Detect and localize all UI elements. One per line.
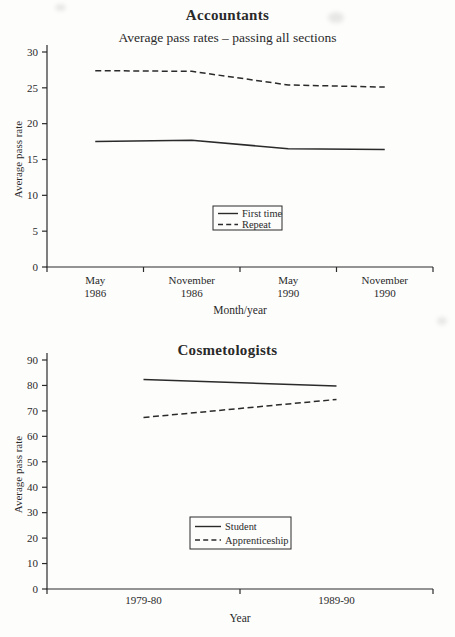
x-tick-label: 1989-90 [318,594,355,606]
y-tick-label: 80 [27,379,39,391]
y-tick-label: 20 [27,532,39,544]
legend-entry-label: Repeat [242,219,271,230]
series-line-repeat [95,71,385,87]
y-tick-label: 30 [27,506,39,518]
y-tick-label: 0 [33,261,39,273]
y-tick-label: 15 [27,153,39,165]
y-tick-label: 60 [27,430,39,442]
x-tick-label: 1986 [84,287,107,299]
chart1-subtitle: Average pass rates – passing all section… [0,30,455,46]
x-tick-label: May [278,274,299,286]
x-tick-label: 1990 [374,287,397,299]
series-line-student [144,380,337,386]
y-tick-label: 50 [27,456,39,468]
series-line-first-time [95,140,385,149]
x-tick-label: November [362,274,409,286]
chart1-x-axis-title: Month/year [47,304,433,316]
legend-entry-label: First time [242,208,283,219]
scan-artifact [55,4,66,11]
series-line-apprenticeship [144,399,337,417]
chart2-title: Cosmetologists [0,342,455,359]
y-tick-label: 40 [27,481,39,493]
scan-artifact [437,317,447,325]
scanned-page: { "page": {"background": "#fdfdfc", "ink… [0,0,455,637]
x-tick-label: 1986 [181,287,204,299]
chart1-title: Accountants [0,7,455,24]
chart2-y-axis-title: Average pass rate [11,395,26,555]
x-tick-label: November [169,274,216,286]
y-tick-label: 5 [33,225,39,237]
y-tick-label: 0 [33,583,39,595]
y-tick-label: 10 [27,189,39,201]
chart2-x-axis-title: Year [47,612,433,624]
plots-canvas: 051015202530May1986November1986May1990No… [0,0,455,637]
x-tick-label: 1990 [277,287,300,299]
y-tick-label: 30 [27,46,39,58]
x-tick-label: 1979-80 [125,594,162,606]
chart1-y-axis-title: Average pass rate [11,80,26,240]
legend-entry-label: Student [225,521,257,532]
x-tick-label: May [85,274,106,286]
scan-artifact [328,12,344,23]
y-tick-label: 70 [27,405,39,417]
y-tick-label: 10 [27,557,39,569]
y-tick-label: 25 [27,82,39,94]
legend-entry-label: Apprenticeship [225,535,288,546]
y-tick-label: 20 [27,117,39,129]
